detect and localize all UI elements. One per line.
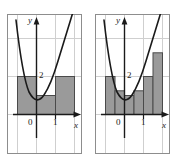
panel-left-x-tick-label: 1 [53,118,58,127]
panel-right-plot [95,14,170,154]
riemann-sum-figure: y x 0 1 2 [0,0,176,167]
panel-right-x-axis-label: x [162,121,166,130]
panel-left-y-axis-label: y [28,16,32,25]
panel-right-rect-2 [115,91,125,115]
panel-right-origin-label: 0 [116,118,121,127]
panel-left-y-tick-label: 2 [39,71,44,80]
panel-right-rect-5 [144,77,154,115]
panel-left-rect-3 [56,77,75,115]
panel-left-origin-label: 0 [28,118,33,127]
panel-left-two-rectangles: y x 0 1 2 [7,14,82,154]
panel-right-x-tick-label: 1 [141,118,146,127]
panel-left-x-axis-label: x [74,121,78,130]
panel-right-rect-6 [153,53,163,115]
panel-left-plot [7,14,82,154]
panel-right-y-tick-label: 2 [127,71,132,80]
panel-right-six-rectangles: y x 0 1 2 [95,14,170,154]
panel-right-rect-4 [134,91,144,115]
panel-right-y-axis-label: y [116,16,120,25]
panel-left-rect-1 [18,77,37,115]
panel-left-rect-2 [37,96,56,115]
